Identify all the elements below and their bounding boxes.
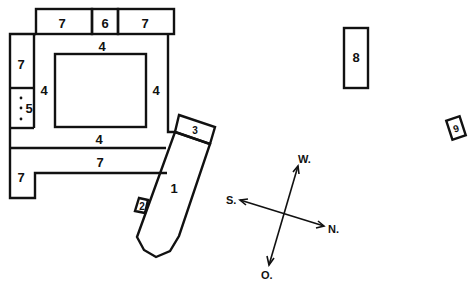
- label-building-1: 1: [170, 181, 177, 196]
- label-courtyard-north-4: 4: [98, 39, 106, 54]
- label-left-7: 7: [17, 57, 24, 72]
- label-building-8: 8: [352, 50, 359, 65]
- label-top-right-7: 7: [141, 16, 148, 31]
- building-8-group: 8: [344, 28, 368, 88]
- site-plan-diagram: 7 6 7 7 5 4 4 4 4 7 7 1 3: [0, 0, 475, 287]
- label-top-6: 6: [101, 16, 108, 31]
- label-left-5: 5: [25, 101, 32, 116]
- top-row-buildings: 7 6 7: [36, 9, 174, 34]
- label-building-2: 2: [139, 201, 145, 212]
- label-courtyard-south-4: 4: [95, 132, 103, 147]
- label-bottom-7: 7: [96, 155, 103, 170]
- compass-label-south: S.: [226, 194, 236, 206]
- building-9-group: 9: [446, 116, 465, 139]
- label-courtyard-west-4: 4: [40, 83, 48, 98]
- label-top-left-7: 7: [58, 16, 65, 31]
- compass-rose: W. S. N. O.: [226, 153, 339, 281]
- compass-west-east-axis: [269, 166, 298, 265]
- label-building-3: 3: [192, 125, 198, 136]
- marker-dot: [20, 107, 23, 110]
- compass-label-north: N.: [328, 223, 339, 235]
- courtyard-block: 7 5 4 4 4 4 7 7: [10, 34, 175, 198]
- main-block-outline-east: [168, 34, 175, 132]
- label-bottom-left-7: 7: [17, 170, 24, 185]
- label-courtyard-east-4: 4: [152, 83, 160, 98]
- marker-dot: [20, 97, 23, 100]
- building-1-group: 1: [137, 132, 210, 257]
- compass-label-west: W.: [298, 153, 311, 165]
- building-3-group: 3: [175, 115, 215, 144]
- marker-dot: [20, 118, 23, 121]
- building-2-group: 2: [135, 198, 148, 213]
- inner-courtyard: [55, 54, 146, 127]
- compass-label-east: O.: [261, 269, 273, 281]
- label-building-9: 9: [452, 122, 461, 134]
